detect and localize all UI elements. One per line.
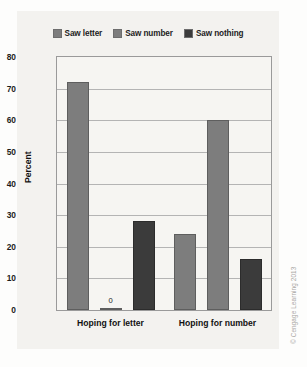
y-axis-tick-label: 20 <box>0 242 16 252</box>
legend-swatch-icon <box>184 29 193 38</box>
bar <box>174 234 196 310</box>
y-axis-tick-label: 80 <box>0 52 16 62</box>
bar <box>67 82 89 310</box>
chart-legend: Saw letter Saw number Saw nothing <box>17 29 279 38</box>
legend-label: Saw nothing <box>196 29 244 38</box>
legend-label: Saw number <box>125 29 173 38</box>
y-axis-tick-label: 70 <box>0 84 16 94</box>
y-axis-tick-label: 60 <box>0 115 16 125</box>
y-axis-tick-label: 30 <box>0 210 16 220</box>
figure-container: Saw letter Saw number Saw nothing Percen… <box>0 0 307 367</box>
bar-value-label: 0 <box>108 296 112 305</box>
legend-item-saw-nothing: Saw nothing <box>184 29 244 38</box>
legend-item-saw-letter: Saw letter <box>53 29 103 38</box>
y-axis-tick-label: 40 <box>0 179 16 189</box>
legend-swatch-icon <box>53 29 62 38</box>
y-axis-tick-label: 10 <box>0 273 16 283</box>
legend-label: Saw letter <box>65 29 103 38</box>
legend-item-saw-number: Saw number <box>113 29 173 38</box>
x-axis-tick-label: Hoping for number <box>179 318 256 328</box>
bar <box>100 308 122 310</box>
y-axis-tick-label: 50 <box>0 147 16 157</box>
y-axis-title: Percent <box>23 151 33 183</box>
bar <box>133 221 155 310</box>
legend-swatch-icon <box>113 29 122 38</box>
x-axis-tick-label: Hoping for letter <box>77 318 144 328</box>
plot-area: 80706050403020100 0 <box>56 56 272 311</box>
bar <box>207 120 229 310</box>
y-axis-tick-label: 0 <box>0 305 16 315</box>
bar-series-layer: 0 <box>57 57 271 310</box>
copyright-credit: © Cengage Learning 2013 <box>290 267 297 344</box>
bar <box>240 259 262 310</box>
